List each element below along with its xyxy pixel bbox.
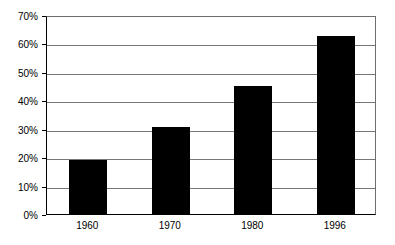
x-axis-tick-label: 1970	[159, 220, 181, 231]
x-axis-tick-labels: 1960197019801996	[46, 220, 376, 240]
x-axis-tick-label: 1996	[324, 220, 346, 231]
bar	[69, 160, 107, 214]
plot-area	[46, 16, 376, 215]
bar-chart: 0%10%20%30%40%50%60%70% 1960197019801996	[0, 0, 395, 245]
y-axis-tick-mark	[42, 215, 46, 216]
bar	[317, 36, 355, 214]
x-axis-tick-label: 1980	[241, 220, 263, 231]
y-axis-tick-marks	[0, 0, 46, 245]
x-axis-tick-label: 1960	[76, 220, 98, 231]
bars-layer	[47, 17, 375, 214]
bar	[152, 127, 190, 214]
bar	[234, 86, 272, 214]
